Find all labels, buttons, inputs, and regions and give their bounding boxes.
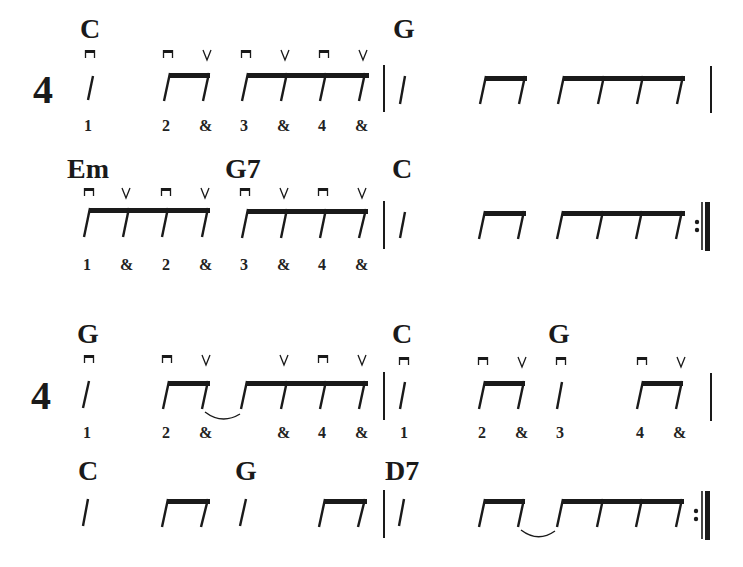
count-label: & (199, 424, 212, 441)
beat-counts: 1 2 & 3 & 4 & (84, 117, 368, 134)
up-stroke-icon (202, 355, 210, 365)
count-label: 3 (240, 256, 248, 273)
up-stroke-icon (122, 188, 130, 198)
quarter-slash (557, 382, 562, 409)
count-label: 2 (162, 256, 170, 273)
down-stroke-icon (84, 188, 94, 196)
chord-label: G (393, 13, 415, 44)
chord-label: C (392, 318, 412, 349)
up-stroke-icon (201, 188, 209, 198)
chord-label: G7 (225, 153, 261, 184)
count-label: 4 (636, 424, 644, 441)
quarter-slash (399, 499, 404, 526)
count-label: & (199, 256, 212, 273)
up-stroke-icon (280, 355, 288, 365)
count-label: 4 (318, 424, 326, 441)
up-stroke-icon (280, 188, 288, 198)
system-1: 4 C G (33, 13, 711, 273)
time-signature: 4 (33, 67, 53, 112)
tie (205, 412, 240, 419)
measure-4 (400, 211, 685, 239)
up-stroke-icon (281, 50, 289, 60)
count-label: & (199, 117, 212, 134)
count-label: 1 (83, 424, 91, 441)
system-2: 4 G C G (31, 318, 711, 540)
down-stroke-icon (318, 355, 328, 363)
repeat-end-barline (695, 202, 710, 251)
down-stroke-icon (637, 357, 647, 365)
beam (248, 73, 369, 78)
chord-label: C (392, 153, 412, 184)
count-label: & (355, 256, 368, 273)
measure-1 (88, 73, 369, 101)
measure-2 (400, 76, 685, 104)
down-stroke-icon (318, 188, 328, 196)
count-label: 2 (478, 424, 486, 441)
beat-counts: 1 2 & & 4 & 1 2 & 3 4 & (83, 424, 686, 441)
chord-label: Em (67, 153, 109, 184)
beat-counts: 1 & 2 & 3 & 4 & (83, 256, 368, 273)
stroke-symbols-row (84, 188, 366, 198)
up-stroke-icon (518, 357, 526, 367)
quarter-slash (400, 382, 405, 409)
quarter-slash (88, 76, 93, 100)
count-label: 3 (240, 117, 248, 134)
count-label: & (277, 424, 290, 441)
strumming-sheet: 4 C G (0, 0, 743, 567)
chord-label: G (548, 318, 570, 349)
down-stroke-icon (85, 50, 95, 58)
chord-label: D7 (385, 455, 419, 486)
measure-7 (83, 499, 367, 527)
repeat-end-barline (694, 491, 710, 540)
count-label: & (355, 424, 368, 441)
down-stroke-icon (240, 188, 250, 196)
beam (169, 73, 210, 78)
count-label: 3 (556, 424, 564, 441)
stroke-symbols-row (84, 355, 685, 367)
count-label: & (673, 424, 686, 441)
down-stroke-icon (319, 50, 329, 58)
down-stroke-icon (399, 357, 409, 365)
measure-6 (400, 381, 683, 409)
count-label: 2 (162, 424, 170, 441)
quarter-slash (83, 499, 88, 526)
down-stroke-icon (162, 355, 172, 363)
stroke-symbols-row (85, 50, 367, 60)
measure-5 (83, 381, 368, 419)
quarter-slash (400, 212, 405, 238)
up-stroke-icon (358, 355, 366, 365)
count-label: 4 (318, 117, 326, 134)
quarter-slash (400, 76, 405, 104)
chord-label: G (235, 455, 257, 486)
count-label: 1 (84, 117, 92, 134)
down-stroke-icon (478, 357, 488, 365)
down-stroke-icon (163, 50, 173, 58)
count-label: & (120, 256, 133, 273)
up-stroke-icon (359, 50, 367, 60)
up-stroke-icon (677, 357, 685, 367)
up-stroke-icon (203, 50, 211, 60)
time-signature: 4 (31, 373, 51, 418)
up-stroke-icon (358, 188, 366, 198)
count-label: & (515, 424, 528, 441)
tie (521, 530, 555, 537)
quarter-slash (83, 381, 89, 408)
count-label: 2 (162, 117, 170, 134)
count-label: & (277, 117, 290, 134)
down-stroke-icon (161, 188, 171, 196)
count-label: & (277, 256, 290, 273)
count-label: 1 (400, 424, 408, 441)
quarter-slash (240, 499, 246, 526)
count-label: & (355, 117, 368, 134)
down-stroke-icon (84, 355, 94, 363)
chord-label: G (77, 318, 99, 349)
chord-label: C (80, 13, 100, 44)
chord-label: C (78, 455, 98, 486)
down-stroke-icon (556, 357, 566, 365)
count-label: 1 (83, 256, 91, 273)
count-label: 4 (318, 256, 326, 273)
down-stroke-icon (241, 50, 251, 58)
measure-8 (399, 499, 684, 537)
measure-3 (84, 208, 368, 238)
